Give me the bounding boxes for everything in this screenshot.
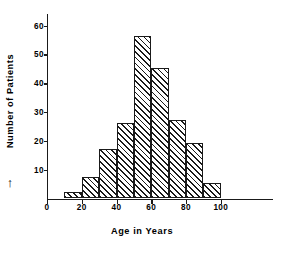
y-axis-tick-mark — [44, 141, 48, 142]
y-axis-label-group: Number of Patients ↑ — [0, 18, 22, 208]
y-axis-tick-label: 20 — [24, 136, 44, 145]
bar-series — [47, 14, 273, 199]
histogram-figure: Number of Patients ↑ 102030405060 020406… — [0, 0, 282, 258]
y-axis-tick-mark — [44, 26, 48, 27]
x-axis-tick-label: 0 — [32, 203, 62, 212]
histogram-bar — [134, 36, 151, 198]
x-axis-tick-label: 100 — [206, 203, 236, 212]
histogram-bar — [203, 183, 220, 197]
y-axis-tick-labels: 102030405060 — [20, 0, 44, 258]
histogram-bar — [151, 68, 168, 198]
x-axis-tick-labels: 020406080100 — [47, 203, 273, 217]
x-axis-tick-label: 80 — [171, 203, 201, 212]
y-axis-tick-label: 10 — [24, 165, 44, 174]
y-axis-tick-label: 40 — [24, 79, 44, 88]
y-axis-tick-mark — [44, 54, 48, 55]
histogram-bar — [117, 123, 134, 198]
x-axis-tick-label: 40 — [102, 203, 132, 212]
x-axis-tick-label: 60 — [136, 203, 166, 212]
y-axis-tick-mark — [44, 170, 48, 171]
x-axis-title: Age in Years — [47, 226, 237, 236]
y-axis-tick-label: 50 — [24, 50, 44, 59]
x-axis-tick-label: 20 — [67, 203, 97, 212]
y-axis-tick-label: 30 — [24, 108, 44, 117]
y-axis-tick-mark — [44, 112, 48, 113]
histogram-bar — [186, 143, 203, 198]
y-axis-tick-mark — [44, 83, 48, 84]
histogram-bar — [82, 177, 99, 197]
histogram-bar — [99, 149, 116, 198]
up-arrow-icon: ↑ — [3, 168, 17, 198]
y-axis-tick-label: 60 — [24, 21, 44, 30]
plot-area — [47, 14, 273, 200]
y-axis-title: Number of Patients — [5, 21, 15, 181]
histogram-bar — [169, 120, 186, 198]
histogram-bar — [64, 192, 81, 198]
